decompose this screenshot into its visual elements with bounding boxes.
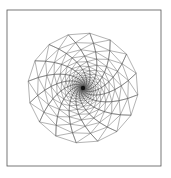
mesh-edges (28, 33, 138, 143)
triangular-mesh-diagram (0, 0, 171, 178)
refinement-center-point (81, 86, 85, 90)
